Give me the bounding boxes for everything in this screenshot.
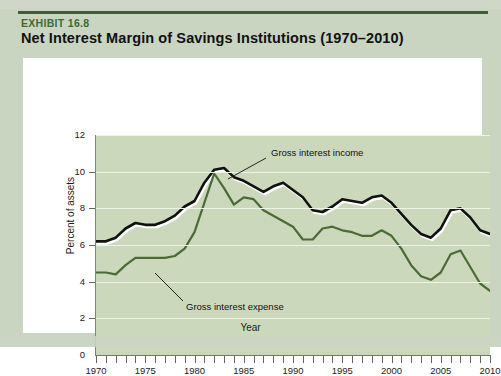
- x-tick-mark: [431, 356, 432, 363]
- x-tick-mark: [313, 356, 314, 363]
- y-tick-label: 0: [65, 350, 85, 360]
- gridline: [96, 318, 490, 319]
- x-tick-mark: [106, 356, 107, 363]
- x-tick-mark: [323, 356, 324, 363]
- y-tick-mark: [89, 318, 95, 319]
- x-tick-mark: [372, 356, 373, 363]
- x-tick-mark: [480, 356, 481, 363]
- x-tick-mark: [460, 356, 461, 363]
- x-tick-mark: [135, 356, 136, 363]
- y-tick-label: 6: [65, 240, 85, 250]
- x-tick-mark: [352, 356, 353, 363]
- scan-artifact-strip: [0, 336, 501, 347]
- page-top-strip: [0, 0, 501, 9]
- page-title: Net Interest Margin of Savings Instituti…: [21, 30, 404, 46]
- x-tick-mark: [441, 356, 442, 363]
- x-tick-mark: [362, 356, 363, 363]
- x-tick-mark: [234, 356, 235, 363]
- x-tick-label: 1970: [79, 365, 113, 376]
- y-tick-mark: [89, 208, 95, 209]
- annotation-gross-interest-expense: Gross interest expense: [186, 301, 284, 312]
- x-tick-mark: [303, 356, 304, 363]
- x-tick-mark: [332, 356, 333, 363]
- x-tick-mark: [401, 356, 402, 363]
- x-tick-label: 1995: [325, 365, 359, 376]
- y-tick-mark: [89, 282, 95, 283]
- x-tick-mark: [411, 356, 412, 363]
- y-tick-label: 10: [65, 167, 85, 177]
- x-tick-mark: [273, 356, 274, 363]
- exhibit-label: EXHIBIT 16.8: [21, 17, 89, 29]
- figure-card: Percent of assets 024681012 197019751980…: [23, 58, 482, 333]
- x-tick-mark: [244, 356, 245, 363]
- x-tick-mark: [195, 356, 196, 363]
- x-tick-mark: [116, 356, 117, 363]
- series-line: [96, 168, 490, 241]
- x-tick-mark: [382, 356, 383, 363]
- y-tick-label: 4: [65, 277, 85, 287]
- series-line-shadow: [97, 170, 490, 243]
- x-tick-mark: [293, 356, 294, 363]
- x-tick-mark: [165, 356, 166, 363]
- x-tick-label: 2000: [375, 365, 409, 376]
- gridline: [96, 282, 490, 283]
- y-tick-label: 8: [65, 203, 85, 213]
- gridline: [96, 135, 490, 136]
- x-tick-mark: [470, 356, 471, 363]
- gridline: [96, 172, 490, 173]
- x-tick-mark: [204, 356, 205, 363]
- x-tick-mark: [342, 356, 343, 363]
- x-tick-mark: [421, 356, 422, 363]
- x-tick-mark: [96, 356, 97, 363]
- y-tick-label: 12: [65, 130, 85, 140]
- x-tick-label: 1975: [128, 365, 162, 376]
- x-axis-title: Year: [0, 322, 501, 333]
- x-tick-mark: [145, 356, 146, 363]
- x-tick-mark: [214, 356, 215, 363]
- x-tick-mark: [263, 356, 264, 363]
- x-tick-mark: [283, 356, 284, 363]
- x-tick-label: 1985: [227, 365, 261, 376]
- header-rule: [18, 11, 488, 14]
- annotation-gross-interest-income: Gross interest income: [271, 147, 363, 158]
- gridline: [96, 208, 490, 209]
- x-tick-mark: [254, 356, 255, 363]
- x-tick-mark: [155, 356, 156, 363]
- x-tick-mark: [185, 356, 186, 363]
- x-tick-label: 1980: [178, 365, 212, 376]
- x-tick-mark: [224, 356, 225, 363]
- x-tick-mark: [490, 356, 491, 363]
- x-tick-mark: [392, 356, 393, 363]
- x-tick-label: 2005: [424, 365, 458, 376]
- x-tick-mark: [175, 356, 176, 363]
- y-tick-mark: [89, 172, 95, 173]
- x-tick-label: 1990: [276, 365, 310, 376]
- x-tick-label: 2010: [473, 365, 501, 376]
- y-tick-mark: [89, 245, 95, 246]
- x-tick-mark: [126, 356, 127, 363]
- gridline: [96, 245, 490, 246]
- x-tick-mark: [451, 356, 452, 363]
